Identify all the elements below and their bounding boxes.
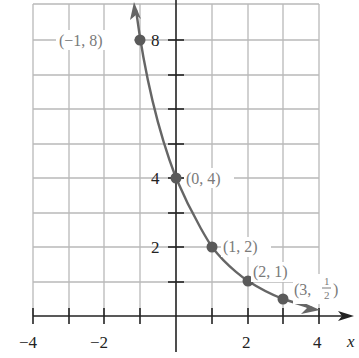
point-1-2 [207, 242, 218, 253]
x-axis-label: x [346, 332, 355, 351]
y-tick-label-4: 4 [151, 169, 160, 188]
point-3-half [278, 294, 289, 305]
point-label-1-2: (1, 2) [223, 238, 258, 256]
point-neg1-8 [135, 35, 146, 46]
y-tick-label-2: 2 [151, 238, 160, 257]
x-tick-label--4: −4 [19, 333, 38, 352]
svg-text:(3,: (3, [294, 281, 311, 299]
x-tick-label-2: 2 [242, 333, 251, 352]
y-tick-label-8: 8 [151, 31, 160, 50]
x-tick-label-4: 4 [313, 333, 322, 352]
exponential-chart: −4 −2 2 4 x 8 4 2 (−1, 8) (0, 4) (1, 2) … [0, 0, 359, 358]
svg-text:1: 1 [324, 275, 330, 287]
point-label-0-4: (0, 4) [186, 170, 221, 188]
x-tick-label--2: −2 [90, 333, 108, 352]
svg-text:2: 2 [324, 289, 330, 301]
point-0-4 [171, 173, 182, 184]
point-label-neg1-8: (−1, 8) [59, 32, 103, 50]
svg-text:): ) [333, 281, 338, 299]
point-label-2-1: (2, 1) [253, 263, 288, 281]
